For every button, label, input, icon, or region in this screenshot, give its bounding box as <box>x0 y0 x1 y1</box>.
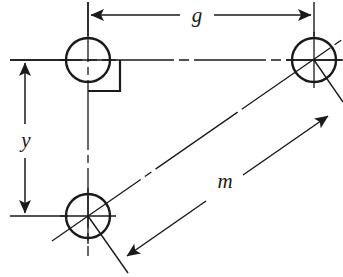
dimension-label-m: m <box>217 169 232 193</box>
engineering-diagram: g y m <box>0 0 343 277</box>
diagram-canvas: g y m <box>0 0 343 277</box>
centreline-diagonal <box>52 39 343 241</box>
dimension-label-g: g <box>192 3 203 27</box>
dimension-m: m <box>88 60 343 273</box>
extension-lines <box>10 2 314 216</box>
dimension-label-y: y <box>19 128 31 152</box>
dimension-line-m-lower <box>127 201 206 256</box>
dimension-y: y <box>19 63 31 213</box>
centre-lines <box>10 2 343 256</box>
dimension-line-m-upper <box>243 116 328 175</box>
dimension-g: g <box>91 3 311 27</box>
